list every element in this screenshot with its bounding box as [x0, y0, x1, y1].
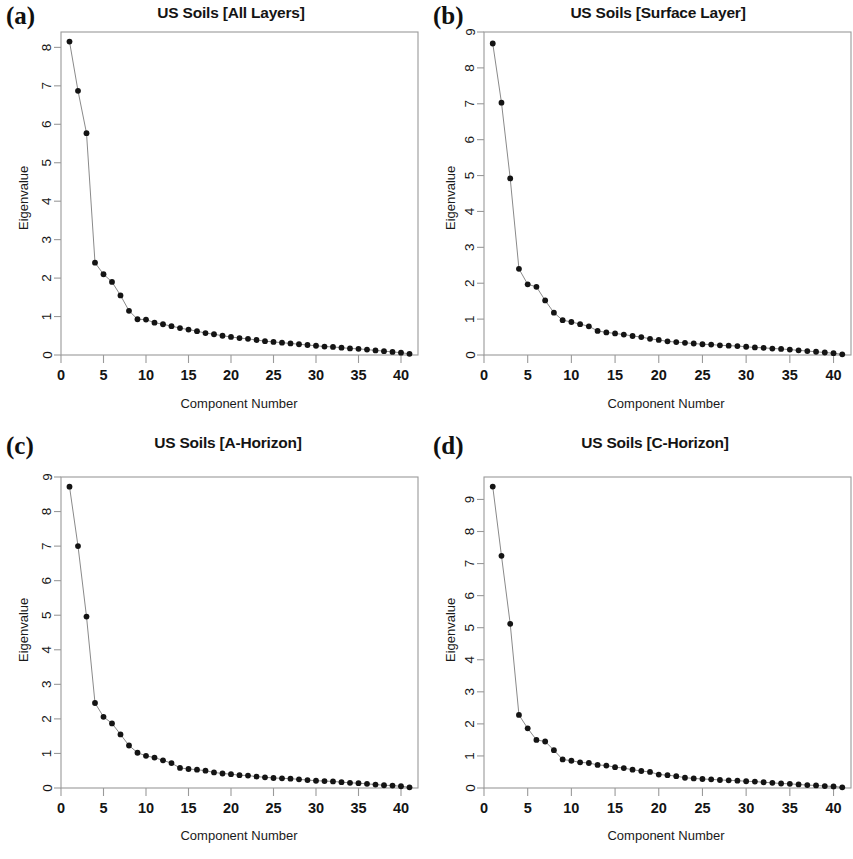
panel-d: (d) US Soils [C-Horizon] Eigenvalue Comp…: [427, 430, 853, 859]
svg-text:7: 7: [40, 82, 55, 90]
svg-text:6: 6: [463, 136, 478, 144]
svg-text:35: 35: [350, 367, 366, 383]
svg-text:25: 25: [265, 367, 281, 383]
svg-text:20: 20: [223, 800, 239, 816]
svg-text:0: 0: [40, 351, 55, 359]
svg-text:0: 0: [57, 367, 65, 383]
svg-text:5: 5: [99, 367, 107, 383]
svg-text:9: 9: [40, 473, 55, 481]
svg-text:0: 0: [57, 800, 65, 816]
svg-text:2: 2: [463, 279, 478, 287]
panel-a: (a) US Soils [All Layers] Eigenvalue Com…: [0, 0, 426, 429]
svg-text:25: 25: [265, 800, 281, 816]
svg-text:3: 3: [463, 244, 478, 252]
svg-text:25: 25: [694, 367, 710, 383]
svg-text:0: 0: [463, 784, 478, 792]
svg-text:10: 10: [563, 367, 579, 383]
svg-text:40: 40: [825, 800, 841, 816]
svg-text:15: 15: [607, 800, 623, 816]
svg-text:0: 0: [40, 784, 55, 792]
svg-text:4: 4: [40, 197, 55, 205]
svg-text:1: 1: [40, 750, 55, 758]
svg-text:0: 0: [480, 800, 488, 816]
svg-text:25: 25: [694, 800, 710, 816]
svg-text:7: 7: [40, 542, 55, 550]
svg-text:8: 8: [40, 44, 55, 52]
svg-text:6: 6: [40, 577, 55, 585]
svg-text:8: 8: [463, 64, 478, 72]
svg-text:4: 4: [463, 207, 478, 215]
svg-text:10: 10: [563, 800, 579, 816]
svg-text:1: 1: [463, 752, 478, 760]
svg-text:40: 40: [393, 367, 409, 383]
svg-text:30: 30: [738, 800, 754, 816]
svg-text:20: 20: [651, 367, 667, 383]
svg-text:6: 6: [40, 121, 55, 129]
panel-b-plot: 01234567890510152025303540: [427, 0, 853, 429]
svg-text:35: 35: [782, 800, 798, 816]
svg-text:7: 7: [463, 100, 478, 108]
svg-text:8: 8: [40, 508, 55, 516]
svg-text:5: 5: [524, 367, 532, 383]
svg-text:20: 20: [651, 800, 667, 816]
svg-text:4: 4: [40, 646, 55, 654]
svg-text:15: 15: [607, 367, 623, 383]
svg-text:0: 0: [480, 367, 488, 383]
svg-text:30: 30: [308, 800, 324, 816]
panel-a-plot: 0123456780510152025303540: [0, 0, 426, 429]
svg-text:40: 40: [825, 367, 841, 383]
svg-text:4: 4: [463, 656, 478, 664]
panel-d-plot: 01234567890510152025303540: [427, 430, 853, 859]
svg-text:5: 5: [524, 800, 532, 816]
svg-text:3: 3: [40, 236, 55, 244]
svg-text:2: 2: [40, 274, 55, 282]
svg-text:5: 5: [463, 172, 478, 180]
svg-text:35: 35: [350, 800, 366, 816]
svg-text:10: 10: [138, 367, 154, 383]
svg-text:5: 5: [40, 159, 55, 167]
svg-text:5: 5: [463, 624, 478, 632]
svg-text:2: 2: [40, 715, 55, 723]
svg-text:3: 3: [40, 681, 55, 689]
svg-text:15: 15: [180, 367, 196, 383]
svg-text:10: 10: [138, 800, 154, 816]
svg-text:2: 2: [463, 720, 478, 728]
panel-b: (b) US Soils [Surface Layer] Eigenvalue …: [427, 0, 853, 429]
scree-plot-figure: (a) US Soils [All Layers] Eigenvalue Com…: [0, 0, 853, 859]
svg-text:15: 15: [180, 800, 196, 816]
svg-text:30: 30: [308, 367, 324, 383]
svg-text:0: 0: [463, 351, 478, 359]
panel-c: (c) US Soils [A-Horizon] Eigenvalue Comp…: [0, 430, 426, 859]
svg-text:1: 1: [40, 313, 55, 321]
svg-text:1: 1: [463, 315, 478, 323]
svg-text:8: 8: [463, 528, 478, 536]
svg-text:30: 30: [738, 367, 754, 383]
svg-text:40: 40: [393, 800, 409, 816]
svg-text:9: 9: [463, 496, 478, 504]
panel-c-plot: 01234567890510152025303540: [0, 430, 426, 859]
svg-text:6: 6: [463, 592, 478, 600]
svg-text:5: 5: [99, 800, 107, 816]
svg-text:5: 5: [40, 611, 55, 619]
svg-text:20: 20: [223, 367, 239, 383]
svg-text:3: 3: [463, 688, 478, 696]
svg-text:35: 35: [782, 367, 798, 383]
svg-text:9: 9: [463, 28, 478, 36]
svg-text:7: 7: [463, 560, 478, 568]
